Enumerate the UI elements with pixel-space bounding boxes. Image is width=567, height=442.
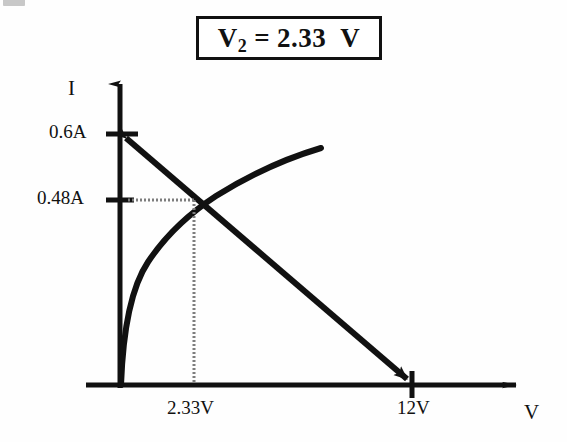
figure-canvas: V2=2.33V	[0, 0, 567, 442]
load-line-plot	[0, 0, 567, 442]
load-line	[126, 138, 407, 379]
x-tick-label-supply: 12V	[397, 398, 430, 417]
y-tick-label-lower: 0.48A	[37, 188, 84, 207]
y-axis-label: I	[68, 78, 75, 99]
x-tick-label-operating: 2.33V	[167, 398, 214, 417]
y-tick-label-upper: 0.6A	[49, 122, 86, 141]
x-axis-label: V	[524, 402, 539, 423]
characteristic-curve	[121, 148, 321, 385]
